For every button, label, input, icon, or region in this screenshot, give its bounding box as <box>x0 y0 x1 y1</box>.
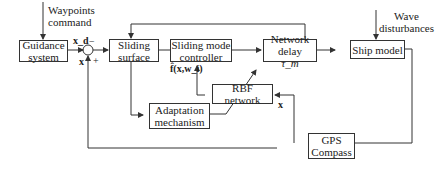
xd-signal-label: x_d <box>73 35 89 46</box>
adaptation-line1: Adaptation <box>155 104 204 116</box>
network-delay-line1: Network delay <box>264 33 316 57</box>
smc-line1: Sliding mode <box>172 39 231 51</box>
waypoints-line1: Waypoints <box>48 4 95 16</box>
sliding-surface-block: Sliding surface <box>109 39 159 62</box>
guidance-line2: system <box>28 51 59 63</box>
ship-model-block: Ship model <box>350 40 405 59</box>
network-delay-block: Network delay τ_m <box>263 39 317 62</box>
wave-line1: Wave <box>379 10 434 22</box>
adaptation-mechanism-block: Adaptation mechanism <box>149 103 210 129</box>
rbf-network-block: RBF network <box>212 84 273 104</box>
adaptation-line2: mechanism <box>154 116 204 128</box>
sliding-surface-line1: Sliding <box>118 39 150 51</box>
wave-line2: disturbances <box>379 22 434 34</box>
x-feedback-label: x <box>79 56 84 67</box>
ship-model-label: Ship model <box>352 44 402 56</box>
f-hat-label: f̂(x,w_i) <box>170 63 203 74</box>
x-rbf-label: x <box>278 99 283 110</box>
guidance-system-block: Guidance system <box>19 40 68 62</box>
gps-line2: Compass <box>311 146 351 158</box>
sliding-mode-controller-block: Sliding mode controller <box>170 39 232 62</box>
smc-line2: controller <box>180 51 223 63</box>
gps-compass-block: GPS Compass <box>308 133 355 159</box>
gps-line1: GPS <box>321 134 341 146</box>
minus-sign: − <box>89 36 95 47</box>
network-delay-tau: τ_m <box>281 57 298 69</box>
wave-disturbances-label: Wave disturbances <box>379 10 434 34</box>
guidance-line1: Guidance <box>22 39 64 51</box>
waypoints-line2: command <box>48 16 95 28</box>
rbf-label: RBF network <box>213 82 272 106</box>
waypoints-command-label: Waypoints command <box>48 4 95 28</box>
sliding-surface-line2: surface <box>118 51 150 63</box>
plus-sign: + <box>93 55 99 66</box>
